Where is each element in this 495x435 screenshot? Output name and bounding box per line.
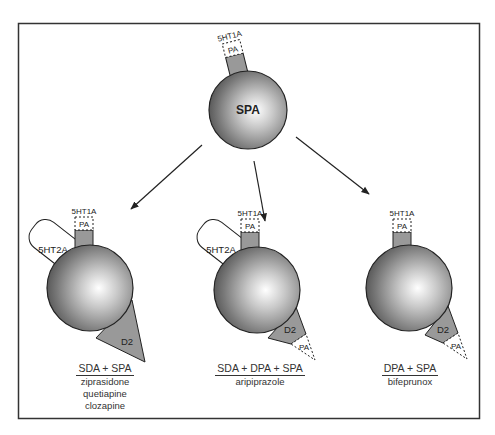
right-5ht1a-label: 5HT1A bbox=[390, 209, 416, 218]
left-5ht1a-receptor: PA 5HT1A bbox=[72, 207, 98, 250]
middle-pa-label: PA bbox=[245, 222, 256, 231]
left-drug-2: quetiapine bbox=[55, 388, 155, 400]
middle-5ht1a-label: 5HT1A bbox=[238, 209, 264, 218]
left-pa-label: PA bbox=[79, 220, 90, 229]
middle-5ht2a-label: 5HT2A bbox=[206, 244, 236, 255]
right-caption: DPA + SPA bifeprunox bbox=[365, 362, 455, 388]
right-drug-1: bifeprunox bbox=[365, 376, 455, 388]
left-sphere bbox=[47, 245, 133, 331]
left-caption: SDA + SPA ziprasidone quetiapine clozapi… bbox=[55, 362, 155, 412]
middle-caption: SDA + DPA + SPA aripiprazole bbox=[205, 362, 315, 388]
top-sphere-label: SPA bbox=[236, 103, 260, 117]
left-drug-3: clozapine bbox=[55, 400, 155, 412]
middle-d2-label: D2 bbox=[284, 324, 296, 335]
middle-5ht1a-receptor: PA 5HT1A bbox=[238, 209, 264, 252]
right-d2-label: D2 bbox=[437, 324, 449, 335]
left-5ht1a-label: 5HT1A bbox=[72, 207, 98, 216]
right-sphere bbox=[366, 245, 452, 331]
right-d2-pa-label: PA bbox=[451, 342, 462, 351]
middle-sphere bbox=[214, 247, 300, 333]
left-drug-1: ziprasidone bbox=[55, 376, 155, 388]
middle-caption-heading: SDA + DPA + SPA bbox=[215, 362, 304, 376]
right-pa-label: PA bbox=[397, 222, 408, 231]
middle-d2-pa-label: PA bbox=[299, 343, 310, 352]
left-d2-label: D2 bbox=[121, 336, 133, 347]
right-caption-heading: DPA + SPA bbox=[382, 362, 438, 376]
left-caption-heading: SDA + SPA bbox=[76, 362, 133, 376]
middle-drug-1: aripiprazole bbox=[205, 376, 315, 388]
